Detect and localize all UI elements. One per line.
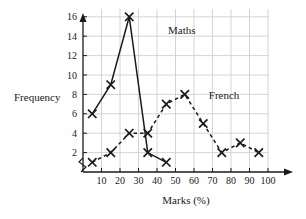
data-point-marker bbox=[162, 100, 170, 108]
data-point-marker bbox=[107, 81, 115, 89]
y-tick-label: 2 bbox=[72, 147, 77, 158]
y-tick-label: 16 bbox=[67, 11, 77, 22]
data-point-marker bbox=[162, 158, 170, 166]
y-tick-label: 12 bbox=[67, 50, 77, 61]
chart-canvas: 102030405060708090100 246810121416 Maths… bbox=[0, 0, 306, 219]
data-point-marker bbox=[236, 139, 244, 147]
data-point-marker bbox=[199, 119, 207, 127]
x-tick-label: 40 bbox=[152, 175, 162, 186]
x-tick-label: 70 bbox=[208, 175, 218, 186]
x-tick-label: 20 bbox=[115, 175, 125, 186]
y-tick-label: 10 bbox=[67, 70, 77, 81]
x-tick-label: 10 bbox=[97, 175, 107, 186]
y-tick-label: 14 bbox=[67, 31, 77, 42]
x-tick-label: 90 bbox=[245, 175, 255, 186]
series-label-maths: Maths bbox=[168, 24, 196, 36]
x-tick-label: 50 bbox=[171, 175, 181, 186]
x-axis-tick-labels: 102030405060708090100 bbox=[97, 175, 276, 186]
x-tick-label: 60 bbox=[189, 175, 199, 186]
series-label-french: French bbox=[209, 89, 240, 101]
y-axis-tick-labels: 246810121416 bbox=[67, 11, 77, 158]
series-line-maths bbox=[92, 17, 166, 163]
y-tick-label: 4 bbox=[72, 128, 77, 139]
y-tick-label: 8 bbox=[72, 89, 77, 100]
y-tick-label: 6 bbox=[72, 108, 77, 119]
x-tick-label: 100 bbox=[261, 175, 276, 186]
x-axis-arrow bbox=[284, 169, 293, 176]
y-axis-title: Frequency bbox=[14, 91, 61, 103]
data-point-marker bbox=[88, 158, 96, 166]
x-tick-label: 80 bbox=[226, 175, 236, 186]
y-axis-arrow bbox=[80, 13, 87, 22]
frequency-polygon-chart: 102030405060708090100 246810121416 Maths… bbox=[0, 0, 306, 219]
x-axis-title: Marks (%) bbox=[162, 194, 210, 207]
x-tick-label: 30 bbox=[134, 175, 144, 186]
